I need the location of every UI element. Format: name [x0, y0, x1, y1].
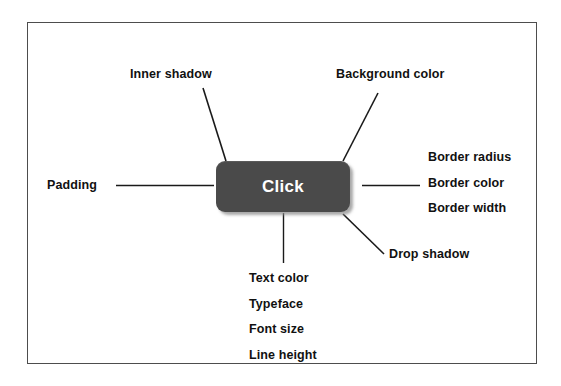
annotation-inner-shadow: Inner shadow [130, 68, 212, 81]
click-button-label: Click [262, 178, 304, 195]
annotation-background-color: Background color [336, 68, 445, 81]
annotation-drop-shadow: Drop shadow [389, 248, 469, 261]
annotation-border-color: Border color [428, 177, 511, 190]
leader-line-inner-shadow [203, 88, 226, 161]
click-button[interactable]: Click [216, 161, 350, 212]
annotation-typeface: Typeface [249, 298, 317, 311]
leader-line-drop-shadow [343, 214, 384, 254]
annotation-group-border: Border radius Border color Border width [428, 151, 511, 215]
annotation-border-width: Border width [428, 202, 511, 215]
annotation-border-radius: Border radius [428, 151, 511, 164]
annotation-group-text: Text color Typeface Font size Line heigh… [249, 272, 317, 362]
annotation-padding: Padding [47, 179, 97, 192]
leader-line-background-color [343, 93, 378, 161]
annotation-line-height: Line height [249, 349, 317, 362]
diagram-page: Click Inner shadow Background color Padd… [0, 0, 561, 386]
annotation-font-size: Font size [249, 323, 317, 336]
annotation-text-color: Text color [249, 272, 317, 285]
